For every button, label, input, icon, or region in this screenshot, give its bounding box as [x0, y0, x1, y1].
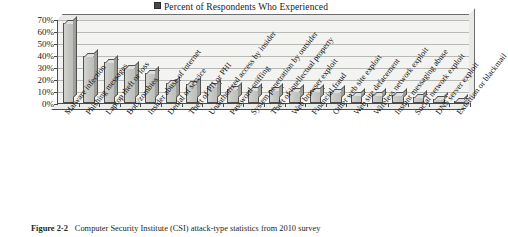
- x-axis-tick-mark: [243, 103, 244, 107]
- bar-side-face: [114, 55, 118, 98]
- legend-square-marker-icon: [154, 2, 161, 9]
- bar-slot: [429, 20, 450, 103]
- bar-side-face: [382, 88, 386, 98]
- x-axis-tick-mark: [388, 103, 389, 107]
- figure-number: Figure 2-2: [31, 224, 68, 233]
- bar-slot: [367, 20, 388, 103]
- y-axis-tick-label: 30%: [14, 63, 58, 73]
- bar: [351, 95, 363, 103]
- bar: [330, 92, 342, 103]
- x-axis-tick-mark: [305, 103, 306, 107]
- bar-slot: [182, 20, 203, 103]
- bar-side-face: [155, 66, 159, 98]
- x-axis-tick-mark: [99, 103, 100, 107]
- bar: [289, 91, 301, 103]
- x-axis-tick-mark: [449, 103, 450, 107]
- bar: [454, 101, 466, 103]
- bar-slot: [326, 20, 347, 103]
- bar-slot: [346, 20, 367, 103]
- bar-slot: [58, 20, 79, 103]
- bar-side-face: [258, 83, 262, 98]
- x-axis-tick-mark: [140, 103, 141, 107]
- bar-slot: [285, 20, 306, 103]
- bar: [227, 89, 239, 103]
- bar-slot: [161, 20, 182, 103]
- x-axis-tick-mark: [120, 103, 121, 107]
- plot-area: 0%10%20%30%40%50%60%70%: [57, 20, 469, 104]
- x-axis-tick-mark: [367, 103, 368, 107]
- bar-side-face: [217, 79, 221, 98]
- bar: [124, 68, 136, 103]
- bar: [63, 23, 75, 103]
- y-axis-tick-label: 10%: [14, 87, 58, 97]
- y-axis-tick-label: 20%: [14, 75, 58, 85]
- y-axis-tick-label: 40%: [14, 51, 58, 61]
- bar-slot: [140, 20, 161, 103]
- x-axis-tick-mark: [79, 103, 80, 107]
- bar: [248, 90, 260, 103]
- bar-side-face: [176, 76, 180, 98]
- bar-slot: [408, 20, 429, 103]
- bar-slot: [120, 20, 141, 103]
- bar-side-face: [279, 83, 283, 98]
- y-axis-tick-label: 60%: [14, 27, 58, 37]
- x-axis-tick-mark: [326, 103, 327, 107]
- figure-caption: Figure 2-2Computer Security Institute (C…: [31, 224, 320, 233]
- x-axis-tick-mark: [408, 103, 409, 107]
- bar-slot: [305, 20, 326, 103]
- bar-side-face: [135, 61, 139, 98]
- bar-slot: [449, 20, 470, 103]
- bar: [145, 73, 157, 103]
- bar-side-face: [73, 16, 77, 98]
- bar-slot: [264, 20, 285, 103]
- bar-side-face: [361, 88, 365, 98]
- bar-side-face: [423, 90, 427, 98]
- bar-slot: [202, 20, 223, 103]
- x-axis-tick-mark: [182, 103, 183, 107]
- bar: [413, 97, 425, 103]
- x-axis-tick-mark: [429, 103, 430, 107]
- bar-top-face: [455, 98, 468, 102]
- bar: [166, 83, 178, 103]
- y-axis-tick-label: 70%: [14, 15, 58, 25]
- bar-side-face: [300, 84, 304, 98]
- bar: [186, 84, 198, 103]
- bar-slot: [79, 20, 100, 103]
- x-axis-tick-mark: [223, 103, 224, 107]
- bar: [104, 62, 116, 103]
- bar-side-face: [94, 49, 98, 98]
- bar-series: [58, 20, 469, 103]
- x-axis-tick-mark: [161, 103, 162, 107]
- bar-slot: [243, 20, 264, 103]
- bar: [269, 90, 281, 103]
- caption-text: Computer Security Institute (CSI) attack…: [75, 224, 321, 233]
- chart-legend: Percent of Respondents Who Experienced: [0, 2, 482, 12]
- x-axis-tick-mark: [470, 103, 471, 107]
- bar: [83, 56, 95, 103]
- x-axis-tick-mark: [346, 103, 347, 107]
- legend-label: Percent of Respondents Who Experienced: [164, 2, 328, 12]
- chart-floor: [51, 104, 469, 110]
- x-axis-tick-mark: [264, 103, 265, 107]
- y-axis-tick-mark: [54, 104, 58, 105]
- x-axis-tick-mark: [285, 103, 286, 107]
- bar-side-face: [341, 85, 345, 98]
- bar: [372, 95, 384, 103]
- bar: [392, 95, 404, 103]
- bar-slot: [388, 20, 409, 103]
- y-axis-tick-label: 0%: [14, 99, 58, 109]
- bar: [433, 99, 445, 103]
- bar: [207, 86, 219, 103]
- x-axis-tick-mark: [202, 103, 203, 107]
- bar-side-face: [238, 82, 242, 98]
- bar-side-face: [320, 84, 324, 98]
- y-axis-tick-label: 50%: [14, 39, 58, 49]
- bar-slot: [223, 20, 244, 103]
- bar-slot: [99, 20, 120, 103]
- bar: [310, 91, 322, 103]
- bar-side-face: [197, 77, 201, 98]
- bar-side-face: [403, 88, 407, 98]
- bar-top-face: [434, 96, 447, 100]
